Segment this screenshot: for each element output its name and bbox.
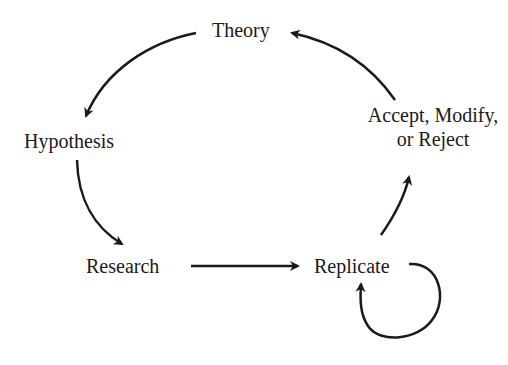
arrow-theory-to-hypothesis (86, 33, 196, 116)
node-replicate-label: Replicate (314, 255, 390, 277)
node-research: Research (86, 254, 159, 278)
node-decision-line1: Accept, Modify, (342, 103, 508, 127)
arrow-replicate-to-decision (381, 177, 409, 235)
arrows-layer (0, 0, 508, 365)
node-decision-line2: or Reject (342, 127, 508, 151)
node-accept-modify-reject: Accept, Modify, or Reject (342, 103, 508, 151)
node-theory-label: Theory (212, 19, 270, 41)
node-hypothesis-label: Hypothesis (24, 130, 114, 152)
node-research-label: Research (86, 255, 159, 277)
node-replicate: Replicate (314, 254, 390, 278)
arrow-hypothesis-to-research (77, 160, 122, 244)
node-theory: Theory (212, 18, 270, 42)
scientific-method-cycle-diagram: Theory Hypothesis Research Replicate Acc… (0, 0, 508, 365)
arrow-decision-to-theory (292, 33, 395, 100)
node-hypothesis: Hypothesis (24, 129, 114, 153)
